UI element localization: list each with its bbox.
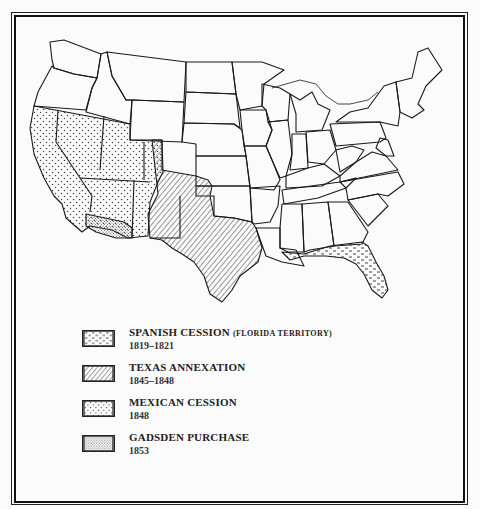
legend-title: SPANISH CESSION: [129, 326, 230, 338]
legend-item-gadsden-purchase: GADSDEN PURCHASE 1853: [82, 433, 382, 469]
legend-years: 1848: [129, 410, 149, 421]
state-tennessee: [282, 178, 356, 204]
state-washington: [50, 40, 101, 78]
legend-years: 1845–1848: [129, 375, 174, 386]
legend-item-mexican-cession: MEXICAN CESSION 1848: [82, 398, 382, 434]
state-montana: [107, 52, 186, 102]
state-georgia: [328, 202, 368, 246]
state-new-jersey-md-de: [376, 138, 394, 156]
region-texas-annexation: [148, 140, 262, 302]
legend-title: MEXICAN CESSION: [129, 396, 237, 408]
great-lakes: [272, 80, 378, 104]
state-missouri: [244, 146, 280, 190]
state-mississippi: [280, 204, 304, 252]
state-arkansas: [250, 186, 280, 224]
legend-item-texas-annexation: TEXAS ANNEXATION 1845–1848: [82, 363, 382, 399]
state-indiana: [290, 134, 308, 170]
legend-years: 1853: [129, 445, 149, 456]
state-new-england: [396, 48, 442, 118]
state-oregon: [34, 66, 97, 110]
legend-title: TEXAS ANNEXATION: [129, 361, 245, 373]
spanish-cession-swatch-icon: [82, 330, 115, 347]
mexican-cession-swatch-icon: [82, 400, 115, 417]
legend-subtitle: (FLORIDA TERRITORY): [233, 329, 332, 338]
state-south-dakota: [184, 92, 240, 128]
state-wisconsin: [262, 84, 290, 122]
state-north-carolina: [340, 172, 404, 200]
state-nebraska: [182, 123, 246, 156]
state-kentucky: [286, 164, 340, 188]
state-wyoming: [130, 100, 184, 142]
state-ohio: [306, 130, 336, 164]
state-pennsylvania: [330, 122, 386, 146]
legend-title: GADSDEN PURCHASE: [129, 431, 249, 443]
legend-item-spanish-cession: SPANISH CESSION (FLORIDA TERRITORY) 1819…: [82, 328, 382, 364]
state-north-dakota: [186, 62, 236, 94]
legend-years: 1819–1821: [129, 340, 174, 351]
state-michigan: [290, 92, 330, 132]
gadsden-purchase-swatch-icon: [82, 435, 115, 452]
state-minnesota: [232, 62, 284, 110]
texas-annexation-swatch-icon: [82, 365, 115, 382]
state-illinois: [266, 120, 292, 178]
region-spanish-cession: [282, 242, 388, 298]
